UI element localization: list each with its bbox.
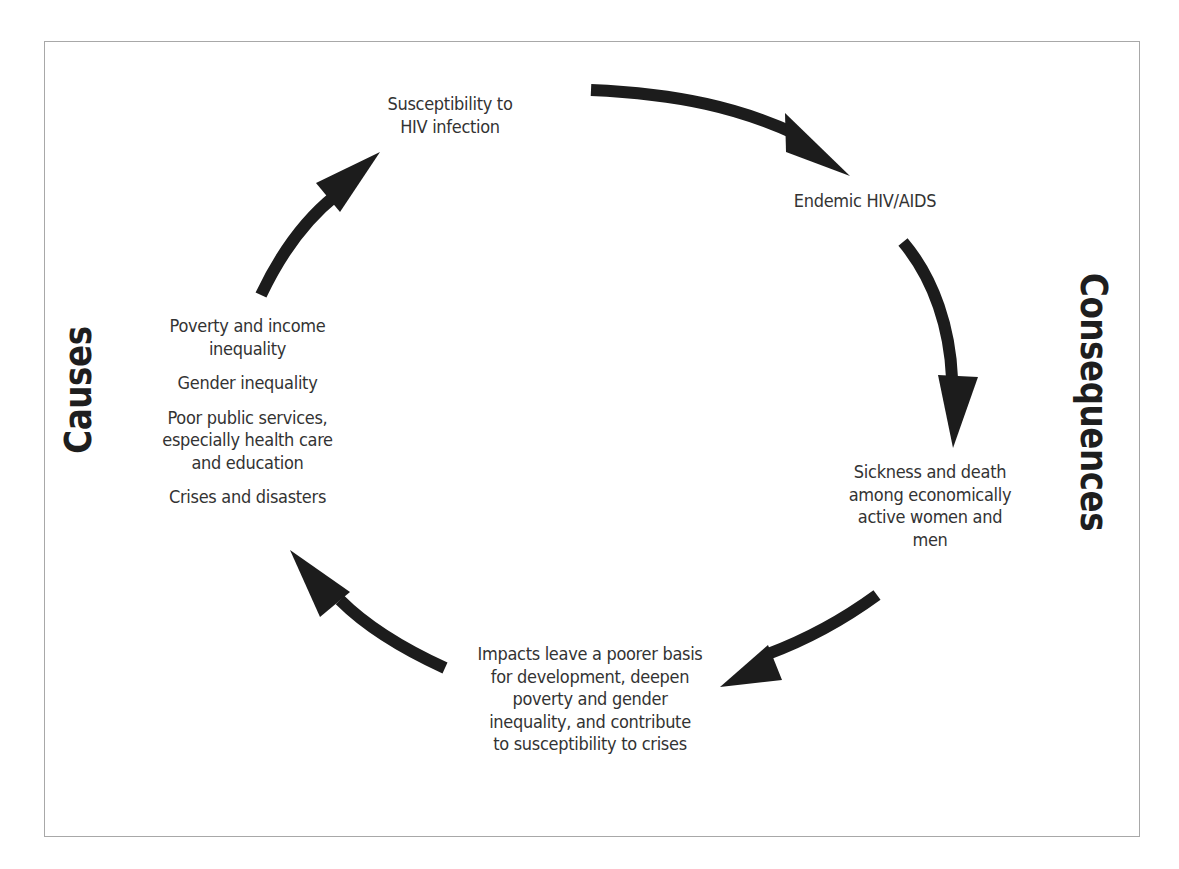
node-sickness: Sickness and death among economically ac… (815, 461, 1045, 551)
node-text-line: active women and (815, 506, 1045, 529)
node-text-line: Impacts leave a poorer basis (430, 643, 750, 666)
node-text-line: Endemic HIV/AIDS (750, 190, 980, 213)
cause-text-line: Poverty and income (135, 315, 360, 338)
causes-list: Poverty and income inequality Gender ine… (135, 315, 360, 521)
causes-label: Causes (57, 326, 100, 453)
cause-text-line: Poor public services, (135, 407, 360, 430)
cause-text-line: inequality (135, 338, 360, 361)
arrow-causes-to-susceptibility (261, 152, 380, 295)
cause-item: Poor public services, especially health … (135, 407, 360, 475)
node-text-line: among economically (815, 484, 1045, 507)
cause-text-line: Gender inequality (135, 372, 360, 395)
arrow-susceptibility-to-endemic (591, 90, 850, 176)
node-text-line: Sickness and death (815, 461, 1045, 484)
cause-text-line: Crises and disasters (135, 486, 360, 509)
node-impacts: Impacts leave a poorer basis for develop… (430, 643, 750, 756)
node-text-line: to susceptibility to crises (430, 733, 750, 756)
cause-item: Crises and disasters (135, 486, 360, 509)
node-text-line: HIV infection (355, 116, 545, 139)
node-text-line: Susceptibility to (355, 93, 545, 116)
cause-item: Poverty and income inequality (135, 315, 360, 360)
cause-text-line: especially health care (135, 429, 360, 452)
cause-text-line: and education (135, 452, 360, 475)
node-text-line: for development, deepen (430, 666, 750, 689)
node-text-line: inequality, and contribute (430, 711, 750, 734)
cause-item: Gender inequality (135, 372, 360, 395)
arrow-endemic-to-sickness (903, 242, 978, 448)
node-susceptibility: Susceptibility to HIV infection (355, 93, 545, 138)
consequences-label: Consequences (1072, 273, 1115, 531)
node-text-line: men (815, 529, 1045, 552)
node-text-line: poverty and gender (430, 688, 750, 711)
node-endemic: Endemic HIV/AIDS (750, 190, 980, 213)
arrow-impacts-to-causes (290, 550, 445, 668)
